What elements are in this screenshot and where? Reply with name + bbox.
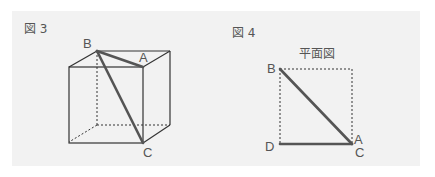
cube-front-face <box>69 67 143 143</box>
figure-4-title: 図 4 <box>232 26 255 40</box>
plan-label-D: D <box>265 139 274 154</box>
figure-4: 図 4 平面図 B D A C <box>232 26 364 160</box>
hidden-edge-bottom-left-depth <box>69 125 97 142</box>
label-B: B <box>83 36 92 51</box>
edge-top-left-depth <box>69 51 97 67</box>
plan-segment-BA <box>280 69 352 144</box>
diagrams: 図 3 B A C 図 4 平面図 <box>0 0 435 177</box>
plan-label-C: C <box>355 145 364 160</box>
edge-bottom-right-depth <box>143 125 170 143</box>
figure-3: 図 3 B A C <box>24 22 170 160</box>
figure-3-title: 図 3 <box>24 22 47 36</box>
label-C: C <box>143 145 152 160</box>
plan-view-title: 平面図 <box>299 47 335 61</box>
label-A: A <box>139 50 148 65</box>
plan-label-B: B <box>267 61 276 76</box>
